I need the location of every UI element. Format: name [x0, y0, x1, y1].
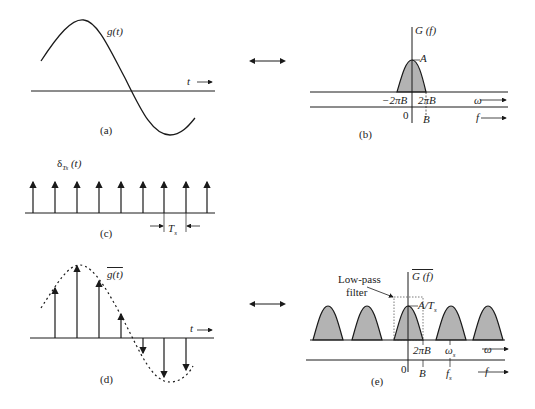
- t-axis-label: t: [187, 76, 190, 87]
- B-label-e: B: [419, 368, 426, 379]
- neg-2piB-label: −2πB: [382, 95, 407, 106]
- f-axis-label-e: f: [485, 366, 488, 377]
- 2piB-label-e: 2πB: [413, 345, 431, 356]
- omega-axis-label: ω: [474, 95, 482, 106]
- origin-label-e: 0: [401, 364, 407, 375]
- pos-2piB-label: 2πB: [418, 95, 436, 106]
- peak-A-label: A: [420, 53, 427, 64]
- panel-d-sampled-signal: [30, 265, 214, 382]
- caption-b: (b): [359, 128, 372, 140]
- panel-e-sampled-spectrum: [306, 272, 508, 372]
- g-t-curve: [41, 20, 195, 135]
- panel-b-spectrum: [310, 27, 508, 123]
- g-bar-t-label: g(t): [107, 269, 123, 280]
- caption-c: (c): [100, 227, 112, 239]
- G-bar-f-label: G (f): [412, 271, 433, 282]
- caption-e: (e): [371, 375, 383, 387]
- caption-a: (a): [100, 124, 112, 136]
- t-axis-label-d: t: [190, 323, 193, 334]
- B-label: B: [423, 114, 430, 125]
- panel-c-impulse-train: [25, 182, 215, 232]
- filter-label-1: Low-pass: [338, 274, 381, 285]
- filter-pointer-icon: [367, 287, 393, 297]
- g-t-label: g(t): [107, 26, 123, 37]
- impulse-train-label: δTs (t): [57, 158, 81, 172]
- f-axis-label: f: [476, 112, 479, 123]
- caption-d: (d): [100, 373, 113, 385]
- envelope-curve: [41, 265, 193, 382]
- origin-label: 0: [403, 110, 409, 121]
- omega-s-label: ωs: [445, 345, 456, 359]
- G-f-label: G (f): [415, 25, 436, 36]
- filter-label-2: filter: [346, 287, 367, 298]
- omega-axis-label-e: ω: [484, 344, 492, 355]
- A-over-Ts-label: A/Ts: [418, 300, 437, 314]
- Ts-label: Ts: [168, 223, 177, 237]
- fs-label: fs: [446, 368, 452, 382]
